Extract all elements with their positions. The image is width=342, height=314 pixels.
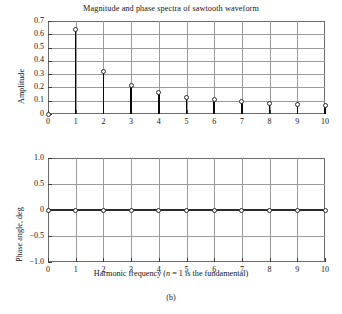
data-point-marker [101,208,106,213]
y-tick-label: 0.1 [14,95,44,104]
x-tick-label: 5 [175,117,199,126]
y-tick-mark [48,158,52,159]
chart-title: Magnitude and phase spectra of sawtooth … [0,4,342,13]
data-point-marker [46,208,51,213]
data-point-marker [184,208,189,213]
x-tick-label: 1 [64,117,88,126]
y-tick-mark [48,74,52,75]
data-point-marker [73,208,78,213]
figure-caption: (b) [0,293,342,302]
data-point-marker [267,208,272,213]
data-point-marker [295,208,300,213]
x-tick-label: 9 [285,117,309,126]
y-tick-label: 0.7 [14,16,44,25]
data-point-marker [295,102,300,107]
x-tick-label: 0 [36,117,60,126]
x-tick-mark [270,258,271,262]
x-tick-label: 8 [258,117,282,126]
stem-line [75,29,77,114]
data-point-marker [184,95,189,100]
x-tick-mark [159,258,160,262]
y-tick-mark [48,61,52,62]
phase-plot-panel [48,158,325,262]
x-tick-label: 3 [119,117,143,126]
y-tick-mark [48,184,52,185]
x-tick-mark [297,258,298,262]
x-axis-label-after: = 1 is the fundamental) [170,269,248,278]
y-tick-mark [48,262,52,263]
x-tick-label: 7 [230,117,254,126]
x-tick-mark [187,258,188,262]
x-axis-label-before: Harmonic frequency ( [94,269,166,278]
data-point-marker [46,112,51,117]
x-tick-mark [214,258,215,262]
figure-sawtooth-spectra: Magnitude and phase spectra of sawtooth … [0,0,342,314]
x-tick-label: 4 [147,117,171,126]
data-point-marker [239,208,244,213]
gridline-horizontal [48,61,325,62]
x-tick-mark [131,258,132,262]
stem-line [103,72,105,114]
y-tick-mark [48,236,52,237]
y-tick-mark [48,21,52,22]
data-point-marker [323,103,328,108]
gridline-horizontal [48,48,325,49]
gridline-horizontal [48,87,325,88]
y-tick-label: 0.4 [14,55,44,64]
data-point-marker [129,208,134,213]
data-point-marker [323,208,328,213]
gridline-horizontal [48,34,325,35]
x-tick-mark [103,258,104,262]
y-tick-label: 0.5 [14,42,44,51]
gridline-horizontal [48,184,325,185]
data-point-marker [129,83,134,88]
y-tick-label: 0.6 [14,29,44,38]
data-point-marker [212,208,217,213]
stem-line [213,100,215,114]
y-tick-label: 0.2 [14,82,44,91]
y-tick-mark [48,101,52,102]
y-tick-mark [48,87,52,88]
stem-line [186,97,188,114]
gridline-horizontal [48,236,325,237]
x-axis-label: Harmonic frequency (n = 1 is the fundame… [0,269,342,278]
y-tick-mark [48,34,52,35]
y-tick-label: 0.5 [14,179,44,188]
y-tick-label: 0.3 [14,69,44,78]
x-tick-mark [242,258,243,262]
x-tick-mark [325,258,326,262]
y-tick-mark [48,48,52,49]
stem-line [130,86,132,114]
y-tick-label: 1.0 [14,153,44,162]
x-tick-label: 2 [91,117,115,126]
stem-line [158,93,160,114]
data-point-marker [156,208,161,213]
x-tick-label: 10 [313,117,337,126]
magnitude-plot-panel [48,21,325,114]
data-point-marker [267,101,272,106]
x-tick-label: 6 [202,117,226,126]
y-tick-label: 0 [14,205,44,214]
gridline-horizontal [48,74,325,75]
y-tick-label: −0.5 [14,231,44,240]
x-tick-mark [76,258,77,262]
